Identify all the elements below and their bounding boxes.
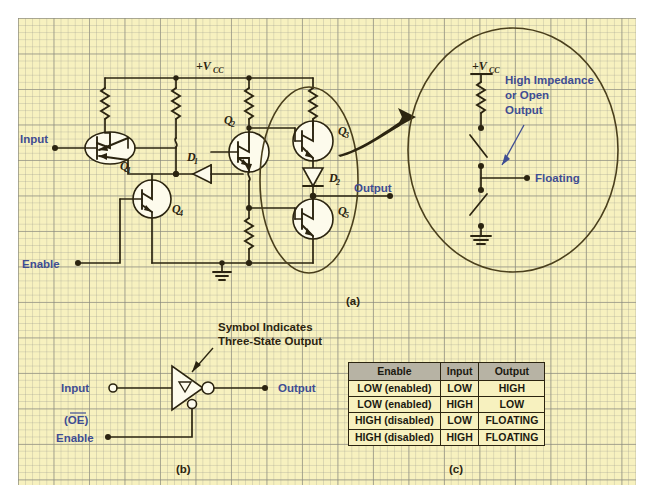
table-row: LOW (enabled) HIGH LOW (349, 397, 545, 413)
inset-switch-upper (470, 135, 487, 169)
input-label-a: Input (20, 133, 48, 145)
panel-b-symbol (105, 348, 268, 440)
symbol-annotation-line1: Symbol Indicates (218, 321, 313, 333)
panel-a-circuit: +V CC (52, 59, 416, 280)
inset-switch-lower (470, 194, 487, 215)
table-header-row: Enable Input Output (349, 363, 545, 381)
enable-inversion-bubble (188, 400, 197, 409)
input-terminal-dot (52, 145, 58, 151)
cell-enable: LOW (enabled) (349, 381, 441, 397)
output-label-a: Output (354, 182, 392, 194)
resistor-r2 (172, 78, 180, 177)
vcc-label-sub: CC (213, 66, 224, 75)
cell-enable: HIGH (disabled) (349, 429, 441, 445)
symbol-oe-label: (OE) (64, 414, 88, 426)
cell-input: HIGH (440, 429, 479, 445)
q4-label-sub: 4 (178, 209, 183, 218)
truth-table: Enable Input Output LOW (enabled) LOW HI… (348, 362, 545, 446)
inset-resistor (477, 82, 485, 113)
inset-equivalent-model: +V CC (408, 28, 618, 272)
symbol-enable-label: Enable (56, 432, 94, 444)
symbol-input-terminal (109, 384, 117, 392)
node-dot (246, 260, 252, 266)
output-inversion-bubble (202, 382, 214, 394)
cell-enable: HIGH (disabled) (349, 413, 441, 429)
symbol-output-label: Output (278, 382, 316, 394)
q2-label-sub: 2 (230, 120, 235, 129)
transistor-q1 (52, 132, 176, 174)
symbol-enable-terminal-dot (105, 434, 111, 440)
cell-input: HIGH (440, 397, 479, 413)
diode-d2 (303, 168, 323, 196)
panel-b-caption: (b) (176, 463, 191, 475)
q1-label-sub: 1 (127, 166, 131, 175)
enable-terminal-dot (75, 260, 81, 266)
high-impedance-arrow (502, 125, 524, 165)
symbol-annotation-line2: Three-State Output (218, 335, 322, 347)
resistor-r3 (245, 78, 253, 131)
table-row: HIGH (disabled) LOW FLOATING (349, 413, 545, 429)
inset-note-line2: or Open (505, 89, 549, 101)
header-input: Input (440, 363, 479, 381)
cell-enable: LOW (enabled) (349, 397, 441, 413)
q2-emitter-hop (248, 172, 250, 181)
inset-note-line3: Output (505, 104, 543, 116)
oe-label-group: (OE) (64, 413, 88, 426)
q3-label-sub: 3 (344, 131, 349, 140)
table-row: HIGH (disabled) HIGH FLOATING (349, 429, 545, 445)
inset-floating-label: Floating (535, 172, 580, 184)
cell-output: HIGH (479, 381, 545, 397)
cell-input: LOW (440, 413, 479, 429)
vcc-label: +V (196, 59, 212, 73)
cell-input: LOW (440, 381, 479, 397)
symbol-input-label: Input (61, 382, 89, 394)
enable-label-a: Enable (22, 258, 60, 270)
figure-container: +V CC (0, 0, 656, 501)
inset-floating-terminal-dot (524, 175, 530, 181)
vcc-rail (105, 75, 313, 80)
transistor-q5 (293, 196, 333, 263)
symbol-output-terminal-dot (262, 385, 268, 391)
header-enable: Enable (349, 363, 441, 381)
inset-node-dot (478, 125, 484, 131)
inset-ground (471, 223, 491, 244)
three-state-annotation-arrow (192, 348, 213, 372)
inset-note-line1: High Impedance (505, 74, 594, 86)
cell-output: LOW (479, 397, 545, 413)
inset-circle (408, 28, 618, 272)
cell-output: FLOATING (479, 413, 545, 429)
q5-label-sub: 5 (345, 211, 349, 220)
d2-label-sub: 2 (335, 178, 340, 187)
cell-output: FLOATING (479, 429, 545, 445)
resistor-r5 (245, 208, 253, 266)
inset-node-dot (478, 187, 484, 193)
callout-arrow (338, 108, 416, 157)
circuit-artwork: +V CC (0, 0, 656, 501)
symbol-enable-wire (108, 409, 192, 437)
d1-label-sub: 1 (194, 157, 198, 166)
panel-a-caption: (a) (346, 295, 360, 307)
header-output: Output (479, 363, 545, 381)
table-row: LOW (enabled) LOW HIGH (349, 381, 545, 397)
transistor-q4 (120, 174, 171, 263)
resistor-r4 (309, 78, 317, 126)
enable-input-wire (75, 199, 120, 266)
panel-c-caption: (c) (449, 463, 463, 475)
diode-d1 (176, 165, 243, 183)
transistor-q3 (293, 121, 333, 168)
inset-vcc-label: +V (472, 59, 488, 73)
resistor-r1 (101, 78, 109, 133)
